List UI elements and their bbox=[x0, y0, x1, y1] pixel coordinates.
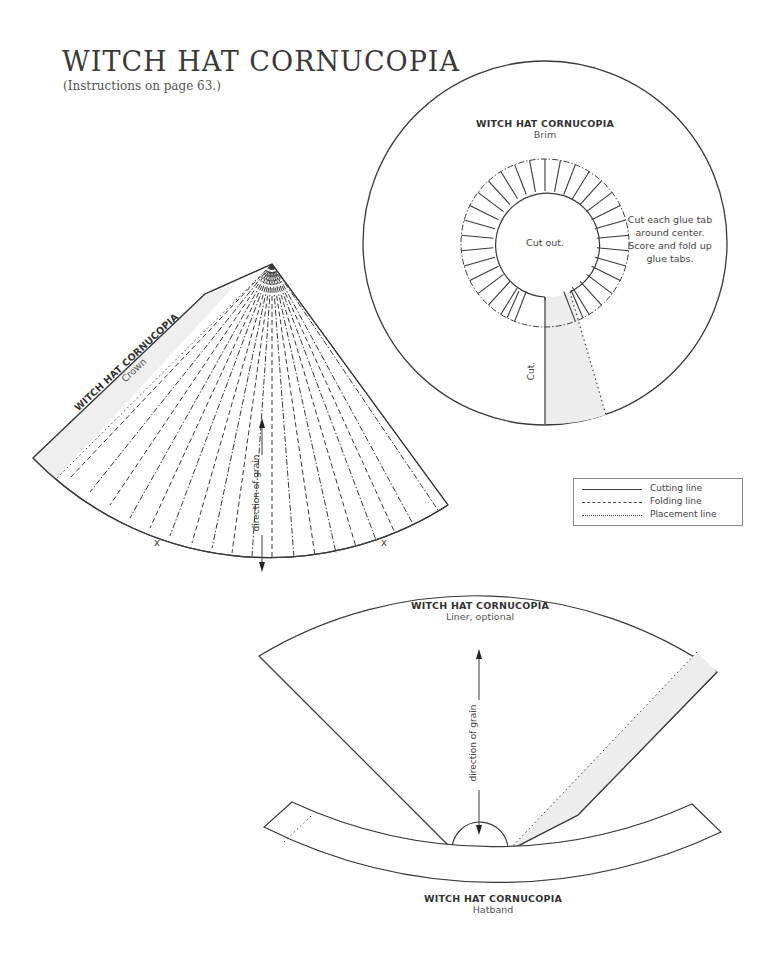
brim-label: WITCH HAT CORNUCOPIA Brim bbox=[470, 118, 620, 140]
legend-label: Folding line bbox=[650, 496, 702, 506]
note-line: Score and fold up bbox=[620, 239, 720, 252]
brim-glue-note: Cut each glue tab around center. Score a… bbox=[620, 213, 720, 265]
solid-line-icon bbox=[582, 489, 642, 490]
hatband-label: WITCH HAT CORNUCOPIA Hatband bbox=[418, 893, 568, 915]
line-legend: Cutting line Folding line Placement line bbox=[573, 478, 743, 526]
note-line: Cut each glue tab bbox=[620, 213, 720, 226]
liner-name: Liner, optional bbox=[405, 611, 555, 622]
liner-piece bbox=[259, 596, 717, 851]
legend-label: Cutting line bbox=[650, 483, 702, 493]
brim-center-label: Cut out. bbox=[500, 237, 590, 248]
brim-name: Brim bbox=[470, 129, 620, 140]
dotted-line-icon bbox=[582, 515, 642, 516]
liner-grain-label: direction of grain bbox=[468, 705, 478, 782]
hatband-title: WITCH HAT CORNUCOPIA bbox=[418, 893, 568, 904]
crown-grain-label: direction of grain bbox=[251, 455, 261, 532]
liner-label: WITCH HAT CORNUCOPIA Liner, optional bbox=[405, 600, 555, 622]
brim-title: WITCH HAT CORNUCOPIA bbox=[470, 118, 620, 129]
note-line: glue tabs. bbox=[620, 252, 720, 265]
note-line: around center. bbox=[620, 226, 720, 239]
hatband-name: Hatband bbox=[418, 904, 568, 915]
crown-mark-x: x bbox=[154, 537, 160, 548]
crown-mark-x: x bbox=[381, 537, 387, 548]
dash-dot-line-icon bbox=[582, 502, 642, 503]
legend-label: Placement line bbox=[650, 509, 717, 519]
liner-title: WITCH HAT CORNUCOPIA bbox=[405, 600, 555, 611]
brim-cut-label: Cut. bbox=[526, 362, 536, 380]
